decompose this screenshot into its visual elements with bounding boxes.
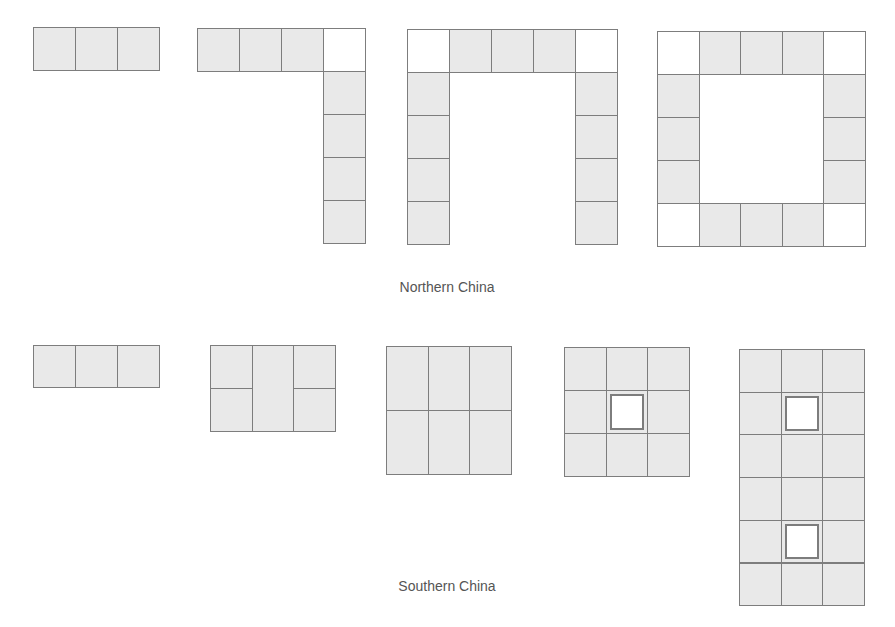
room-cell (323, 114, 366, 158)
room-cell (293, 388, 336, 432)
room-cell (33, 345, 76, 388)
room-cell (407, 201, 450, 245)
room-cell (239, 28, 282, 72)
room-cell (210, 345, 253, 389)
room-cell (606, 433, 649, 477)
room-cell (822, 392, 865, 436)
room-cell (449, 29, 492, 73)
room-cell (564, 433, 607, 477)
room-cell (823, 117, 866, 161)
room-cell (739, 563, 782, 607)
room-cell (739, 520, 782, 564)
room-cell (575, 158, 618, 202)
northern-china-caption: Northern China (400, 279, 495, 295)
room-cell (281, 28, 324, 72)
room-cell (781, 434, 824, 478)
room-cell (564, 390, 607, 434)
room-cell (407, 115, 450, 159)
room-cell (117, 27, 160, 71)
room-cell (117, 345, 160, 388)
room-cell (293, 345, 336, 389)
room-cell (323, 200, 366, 244)
room-cell (822, 434, 865, 478)
courtyard-hole (785, 524, 820, 560)
room-cell (739, 392, 782, 436)
empty-cell (823, 31, 866, 75)
room-cell (323, 71, 366, 115)
room-cell (428, 410, 471, 475)
room-cell (575, 115, 618, 159)
room-cell (428, 346, 471, 411)
empty-cell (407, 29, 450, 73)
southern-china-caption: Southern China (398, 578, 495, 594)
room-cell (407, 158, 450, 202)
room-cell (781, 349, 824, 393)
room-cell (822, 520, 865, 564)
room-cell (197, 28, 240, 72)
room-cell (739, 434, 782, 478)
room-cell (323, 157, 366, 201)
room-cell (564, 347, 607, 391)
room-cell (740, 203, 783, 247)
empty-cell (657, 31, 700, 75)
room-cell (75, 345, 118, 388)
room-cell (210, 388, 253, 432)
room-cell (699, 31, 742, 75)
empty-cell (323, 28, 366, 72)
room-cell (647, 347, 690, 391)
room-cell (782, 31, 825, 75)
room-cell (822, 477, 865, 521)
room-cell (575, 72, 618, 116)
room-cell (647, 433, 690, 477)
empty-cell (575, 29, 618, 73)
room-cell (386, 410, 429, 475)
room-cell (781, 477, 824, 521)
empty-cell (823, 203, 866, 247)
room-cell (739, 477, 782, 521)
room-cell (252, 345, 295, 432)
room-cell (75, 27, 118, 71)
room-cell (386, 346, 429, 411)
room-cell (822, 563, 865, 607)
room-cell (533, 29, 576, 73)
room-cell (781, 563, 824, 607)
room-cell (657, 74, 700, 118)
room-cell (823, 74, 866, 118)
room-cell (740, 31, 783, 75)
room-cell (647, 390, 690, 434)
room-cell (699, 203, 742, 247)
room-cell (739, 349, 782, 393)
room-cell (606, 347, 649, 391)
room-cell (469, 410, 512, 475)
room-cell (657, 160, 700, 204)
room-cell (491, 29, 534, 73)
room-cell (469, 346, 512, 411)
room-cell (575, 201, 618, 245)
empty-cell (657, 203, 700, 247)
room-cell (407, 72, 450, 116)
room-cell (33, 27, 76, 71)
room-cell (822, 349, 865, 393)
room-cell (782, 203, 825, 247)
courtyard-hole (785, 396, 820, 432)
room-cell (823, 160, 866, 204)
room-cell (657, 117, 700, 161)
courtyard-hole (610, 394, 645, 430)
